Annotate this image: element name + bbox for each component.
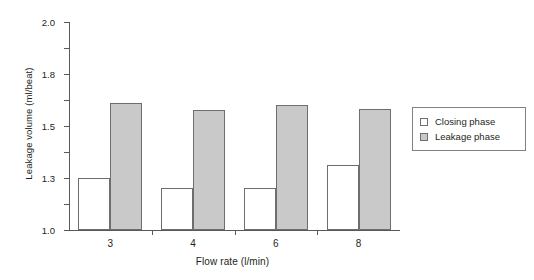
- bar-leakage-phase-8: [359, 109, 391, 230]
- legend-item-closing-phase: Closing phase: [420, 114, 525, 129]
- x-tick: [152, 230, 153, 235]
- x-tick: [317, 230, 318, 235]
- y-tick: 2.0: [64, 22, 69, 23]
- bar-leakage-phase-4: [193, 110, 225, 230]
- y-tick: 1.3: [64, 100, 69, 101]
- chart-legend: Closing phase Leakage phase: [412, 107, 526, 151]
- legend-label-leakage-phase: Leakage phase: [435, 132, 500, 142]
- plot-area: 0.00.30.50.81.01.31.51.82.0 3468: [69, 22, 400, 230]
- y-tick: 0.3: [64, 204, 69, 205]
- legend-item-leakage-phase: Leakage phase: [420, 129, 525, 144]
- bar-leakage-phase-6: [276, 105, 308, 230]
- y-tick: 1.0: [64, 126, 69, 127]
- y-tick-label: 1.0: [42, 225, 55, 236]
- y-tick-label: 1.3: [42, 173, 55, 184]
- y-tick: 0.5: [64, 178, 69, 179]
- x-tick-label: 6: [273, 238, 279, 249]
- y-tick: 1.8: [64, 48, 69, 49]
- y-tick-label: 1.5: [42, 121, 55, 132]
- y-tick: 0.0: [64, 230, 69, 231]
- y-tick: 0.8: [64, 152, 69, 153]
- bar-closing-phase-6: [244, 188, 276, 230]
- y-tick: 1.5: [64, 74, 69, 75]
- y-tick-label: 1.8: [42, 69, 55, 80]
- x-tick-label: 4: [190, 238, 196, 249]
- y-tick-label: 2.0: [42, 17, 55, 28]
- legend-label-closing-phase: Closing phase: [435, 117, 495, 127]
- bar-closing-phase-3: [78, 178, 110, 230]
- x-tick: [235, 230, 236, 235]
- x-tick-label: 3: [108, 238, 114, 249]
- bar-leakage-phase-3: [110, 103, 142, 230]
- y-axis-line: [69, 22, 70, 230]
- x-axis-title: Flow rate (l/min): [65, 256, 400, 267]
- legend-swatch-closing-phase: [420, 118, 428, 126]
- y-axis-title: Leakage volume (ml/beat): [23, 34, 34, 214]
- legend-swatch-leakage-phase: [420, 133, 428, 141]
- bar-closing-phase-4: [161, 188, 193, 230]
- x-tick-label: 8: [356, 238, 362, 249]
- chart-figure: Leakage volume (ml/beat) Flow rate (l/mi…: [0, 0, 534, 280]
- bar-closing-phase-8: [327, 165, 359, 230]
- y-tick-label: 0.8: [42, 277, 55, 280]
